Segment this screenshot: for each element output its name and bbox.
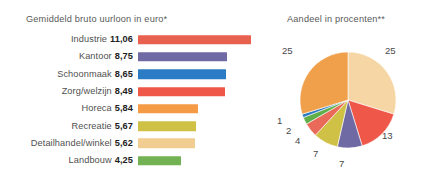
bar-label-box: Schoonmaak8,65 <box>0 70 138 79</box>
pie-slice-label: 7 <box>313 148 318 159</box>
bar-fill <box>138 69 226 79</box>
bar-label-box: Detailhandel/winkel5,62 <box>0 139 138 148</box>
pie-slice-label: 13 <box>382 130 393 141</box>
bar-track <box>138 100 265 117</box>
bar-fill <box>138 121 196 131</box>
bar-chart-rows: Industrie11,06Kantoor8,75Schoonmaak8,65Z… <box>0 31 265 169</box>
pie-chart-panel: Aandeel in procenten** 25137742125 <box>265 0 430 190</box>
bar-label-box: Zorg/welzijn8,49 <box>0 87 138 96</box>
bar-track <box>138 48 265 65</box>
bar-fill <box>138 87 225 97</box>
bar-value-label: 5,62 <box>115 138 133 148</box>
pie-chart-graphic <box>265 0 430 190</box>
bar-chart-title: Gemiddeld bruto uurloon in euro* <box>26 14 167 24</box>
bar-fill <box>138 52 227 62</box>
bar-row: Recreatie5,67 <box>0 117 265 134</box>
bar-chart-panel: Gemiddeld bruto uurloon in euro* Industr… <box>0 0 265 190</box>
bar-fill <box>138 104 198 114</box>
bar-fill <box>138 35 251 45</box>
pie-slice-label: 1 <box>277 115 282 126</box>
pie-slice-label: 4 <box>295 135 300 146</box>
bar-category-label: Landbouw <box>69 155 112 165</box>
bar-track <box>138 152 265 169</box>
bar-category-label: Kantoor <box>79 51 112 61</box>
bar-category-label: Detailhandel/winkel <box>31 138 112 148</box>
pie-slice-label: 25 <box>282 45 293 56</box>
bar-value-label: 8,75 <box>115 51 133 61</box>
bar-row: Horeca5,84 <box>0 100 265 117</box>
bar-fill <box>138 156 181 166</box>
bar-label-box: Recreatie5,67 <box>0 122 138 131</box>
pie-slice-label: 25 <box>385 45 396 56</box>
bar-track <box>138 135 265 152</box>
bar-category-label: Zorg/welzijn <box>62 86 112 96</box>
bar-label-box: Landbouw4,25 <box>0 156 138 165</box>
bar-value-label: 5,67 <box>115 121 133 131</box>
bar-row: Zorg/welzijn8,49 <box>0 83 265 100</box>
bar-category-label: Schoonmaak <box>57 69 112 79</box>
bar-track <box>138 66 265 83</box>
bar-label-box: Horeca5,84 <box>0 104 138 113</box>
bar-track <box>138 31 265 48</box>
bar-value-label: 8,49 <box>115 86 133 96</box>
bar-value-label: 5,84 <box>115 103 133 113</box>
bar-category-label: Industrie <box>71 34 107 44</box>
bar-label-box: Kantoor8,75 <box>0 52 138 61</box>
pie-slice-label: 7 <box>339 158 344 169</box>
bar-category-label: Recreatie <box>72 121 112 131</box>
bar-value-label: 8,65 <box>115 69 133 79</box>
bar-row: Industrie11,06 <box>0 31 265 48</box>
bar-value-label: 4,25 <box>115 155 133 165</box>
bar-value-label: 11,06 <box>110 34 133 44</box>
bar-label-box: Industrie11,06 <box>0 35 138 44</box>
bar-row: Landbouw4,25 <box>0 152 265 169</box>
bar-category-label: Horeca <box>82 103 112 113</box>
bar-row: Detailhandel/winkel5,62 <box>0 135 265 152</box>
pie-slice-label: 2 <box>286 125 291 136</box>
bar-track <box>138 117 265 134</box>
bar-row: Kantoor8,75 <box>0 48 265 65</box>
bar-fill <box>138 139 195 149</box>
bar-track <box>138 83 265 100</box>
bar-row: Schoonmaak8,65 <box>0 66 265 83</box>
